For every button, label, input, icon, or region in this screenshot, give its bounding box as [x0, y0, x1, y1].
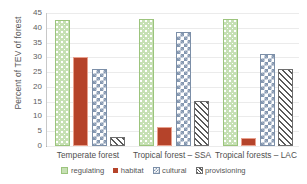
x-axis-tick-label: Tropical forests – LAC	[214, 150, 298, 160]
y-axis-tick-label: 10	[24, 112, 42, 120]
y-axis-tick-label: 15	[24, 98, 42, 106]
bar-provisioning[interactable]	[110, 137, 125, 146]
legend-item-habitat[interactable]: habitat	[113, 166, 143, 175]
legend-label: regulating	[71, 166, 104, 175]
bar-habitat[interactable]	[73, 57, 88, 146]
bar-chart: Percent of TEV of forest 454035302520151…	[0, 0, 307, 184]
bar-regulating[interactable]	[223, 19, 238, 146]
bar-group	[131, 13, 215, 146]
legend-swatch-regulating-icon	[61, 167, 68, 174]
bar-habitat[interactable]	[241, 138, 256, 146]
legend-label: provisioning	[205, 166, 246, 175]
y-axis-tick-label: 0	[24, 142, 42, 150]
bar-cultural[interactable]	[176, 32, 191, 146]
legend-swatch-provisioning-icon	[196, 167, 203, 174]
y-axis-tick-label: 25	[24, 68, 42, 76]
gridline	[47, 146, 299, 147]
legend-item-cultural[interactable]: cultural	[153, 166, 187, 175]
bar-group	[215, 13, 299, 146]
y-axis-tick-label: 20	[24, 83, 42, 91]
x-axis-tick-label: Tropical forest – SSA	[130, 150, 214, 160]
x-axis-tick-label: Temperate forest	[46, 150, 130, 160]
legend-item-provisioning[interactable]: provisioning	[196, 166, 246, 175]
y-axis-tick-label: 30	[24, 53, 42, 61]
plot-area	[46, 13, 299, 147]
y-axis-tick-label: 45	[24, 9, 42, 17]
y-axis-tick-label: 5	[24, 127, 42, 135]
bar-provisioning[interactable]	[194, 101, 209, 146]
bar-regulating[interactable]	[139, 19, 154, 146]
bar-group	[47, 13, 131, 146]
bar-cultural[interactable]	[260, 54, 275, 146]
legend-swatch-cultural-icon	[153, 167, 160, 174]
y-axis-tick-label: 35	[24, 39, 42, 47]
legend-swatch-habitat-icon	[113, 168, 118, 173]
bar-provisioning[interactable]	[278, 69, 293, 146]
bar-regulating[interactable]	[55, 20, 70, 146]
bar-cultural[interactable]	[92, 69, 107, 146]
legend-item-regulating[interactable]: regulating	[61, 166, 104, 175]
bar-habitat[interactable]	[157, 127, 172, 146]
legend-label: habitat	[121, 166, 144, 175]
chart-legend: regulatinghabitatculturalprovisioning	[0, 166, 307, 175]
legend-label: cultural	[162, 166, 186, 175]
y-axis-tick-label: 40	[24, 24, 42, 32]
